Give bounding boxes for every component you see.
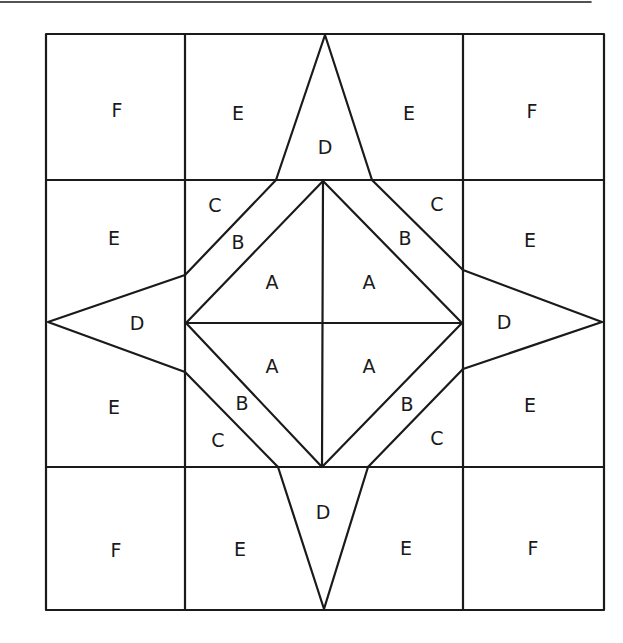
- label-f: F: [528, 537, 539, 559]
- label-f: F: [112, 99, 123, 121]
- label-b: B: [398, 227, 411, 249]
- label-b: B: [235, 392, 248, 414]
- label-e: E: [524, 229, 536, 251]
- label-c: C: [208, 194, 221, 216]
- label-e: E: [234, 538, 246, 560]
- star-point-right: [463, 270, 602, 369]
- label-a: A: [266, 355, 279, 377]
- label-e: E: [232, 102, 244, 124]
- label-c: C: [430, 427, 443, 449]
- label-d: D: [316, 501, 331, 523]
- label-d: D: [130, 312, 145, 334]
- label-f: F: [527, 100, 538, 122]
- quilt-block-diagram: F E D E F C E B A A B C E D D E A A B B …: [0, 0, 623, 643]
- star-point-bottom: [278, 467, 368, 609]
- star-point-top: [276, 35, 372, 180]
- label-e: E: [403, 102, 415, 124]
- label-d: D: [497, 311, 512, 333]
- label-a: A: [363, 271, 376, 293]
- label-a: A: [266, 271, 279, 293]
- label-f: F: [111, 539, 122, 561]
- label-e: E: [108, 396, 120, 418]
- label-d: D: [318, 136, 333, 158]
- label-b: B: [231, 231, 244, 253]
- center-square: [186, 181, 462, 467]
- star-point-left: [48, 275, 185, 372]
- label-e: E: [108, 227, 120, 249]
- label-c: C: [430, 193, 443, 215]
- label-b: B: [400, 393, 413, 415]
- label-e: E: [400, 537, 412, 559]
- label-c: C: [211, 429, 224, 451]
- label-e: E: [524, 394, 536, 416]
- label-a: A: [363, 355, 376, 377]
